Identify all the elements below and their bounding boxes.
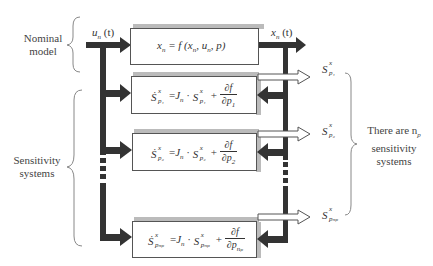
sensitivity-brace [67, 90, 82, 246]
sensitivity-equation-1: Ṡxp₁=Jn · Sxp₁+ ∂f∂p1 [151, 82, 237, 111]
outputs-brace [345, 73, 357, 215]
sensitivity-equation-2: Ṡxp₂=Jn · Sxp₂+ ∂f∂p2 [151, 139, 237, 168]
output-label-sp1: Sxp₁ [322, 62, 340, 76]
output-label-sp2: Sxp₂ [322, 124, 340, 138]
sensitivity-box-1: Ṡxp₁=Jn · Sxp₁+ ∂f∂p1 [131, 76, 257, 114]
sensitivity-systems-label: Sensitivity systems [6, 154, 68, 180]
nominal-model-box: xn = f (xn, un, p) [130, 28, 259, 65]
sensitivity-box-2: Ṡxp₂=Jn · Sxp₂+ ∂f∂p2 [132, 133, 257, 171]
sensitivity-box-np: Ṡxpₙₚ=Jn · Sxpₙₚ+ ∂f∂pnₚ [132, 221, 257, 258]
output-signal-label: xn (t) [271, 26, 293, 41]
nominal-model-label: Nominal model [14, 32, 72, 58]
nominal-equation: xn = f (xn, un, p) [157, 39, 225, 54]
np-note: There are np sensitivity systems [358, 124, 430, 168]
sensitivity-equation-np: Ṡxpₙₚ=Jn · Sxpₙₚ+ ∂f∂pnₚ [148, 226, 245, 255]
input-signal-label: un (t) [92, 26, 114, 41]
input-bus [86, 37, 132, 246]
output-label-spnp: Sxpₙₚ [322, 208, 346, 222]
